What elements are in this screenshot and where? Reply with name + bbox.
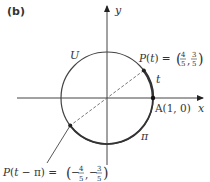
svg-text:): )	[198, 51, 203, 67]
svg-text:3: 3	[97, 165, 101, 173]
svg-text:4: 4	[79, 165, 84, 173]
y-axis-label: y	[114, 4, 122, 17]
unit-circle-diagram: y x U t π A(1, 0) P(t) = ( 4 5 , 3 5 ) P…	[0, 0, 210, 182]
arc-t-label: t	[156, 73, 161, 86]
point-A	[151, 96, 155, 100]
svg-text:P(t) =: P(t) =	[138, 52, 171, 64]
point-Q-label: P(t − π) = ( − 4 5 , − 3 5 )	[2, 165, 108, 182]
svg-text:5: 5	[181, 60, 185, 68]
svg-text:P(t − π) =: P(t − π) =	[2, 166, 57, 178]
point-Q	[68, 124, 72, 128]
svg-text:3: 3	[192, 51, 196, 59]
arc-pi-label: π	[140, 130, 149, 143]
leader-line	[47, 126, 70, 163]
svg-text:4: 4	[181, 51, 186, 59]
svg-text:5: 5	[192, 60, 196, 68]
point-P-label: P(t) = ( 4 5 , 3 5 )	[138, 51, 203, 68]
arc-t	[144, 70, 153, 98]
point-A-label: A(1, 0)	[154, 102, 191, 114]
svg-text:5: 5	[97, 175, 101, 182]
circle-label: U	[70, 49, 80, 62]
svg-text:,: ,	[85, 168, 88, 180]
svg-text:5: 5	[79, 175, 83, 182]
svg-text:): )	[103, 165, 108, 181]
x-axis-label: x	[198, 102, 205, 115]
svg-text:,: ,	[187, 54, 190, 66]
point-P	[142, 68, 146, 72]
